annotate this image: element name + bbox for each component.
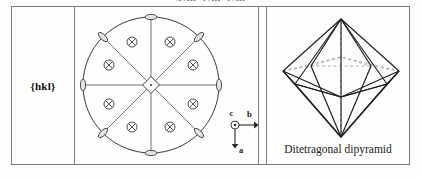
point-group-heading: 4/m 2/m 2/m <box>0 0 422 1</box>
form-table: {hkl} <box>11 6 410 165</box>
girdle-right <box>341 84 387 97</box>
axis-indicator: c b a <box>230 108 259 155</box>
face-pole-4 <box>188 60 198 70</box>
visible-edges <box>283 19 399 137</box>
miller-index-label: {hkl} <box>31 80 56 92</box>
a-axis-label: a <box>239 145 244 155</box>
b-axis-label: b <box>247 109 252 119</box>
stereogram-svg: c b a <box>75 7 258 164</box>
cell-stereogram: c b a <box>75 7 258 164</box>
girdle-left <box>295 84 341 97</box>
face-pole-1 <box>127 37 137 47</box>
two-fold-axis-n <box>145 14 157 19</box>
face-pole-5 <box>104 99 114 109</box>
face-pole-8 <box>165 122 175 132</box>
cell-crystal-form: Ditetragonal dipyramid <box>267 7 409 164</box>
two-fold-axis-w <box>80 79 85 91</box>
face-pole-7 <box>127 122 137 132</box>
cell-form-symbol: {hkl} <box>12 7 74 164</box>
two-fold-axis-e <box>216 79 221 91</box>
crystal-form-caption: Ditetragonal dipyramid <box>267 143 409 155</box>
face-pole-3 <box>104 60 114 70</box>
a-axis-arrow-head <box>232 144 239 149</box>
face-pole-2 <box>165 37 175 47</box>
two-fold-axis-s <box>145 150 157 155</box>
face-pole-6 <box>188 99 198 109</box>
figure-root: 4/m 2/m 2/m {hkl} <box>0 0 422 178</box>
b-axis-arrow-head <box>254 122 258 129</box>
ditetragonal-dipyramid-svg <box>271 9 411 149</box>
c-axis-label: c <box>230 108 234 118</box>
column-divider-2 <box>258 7 259 164</box>
